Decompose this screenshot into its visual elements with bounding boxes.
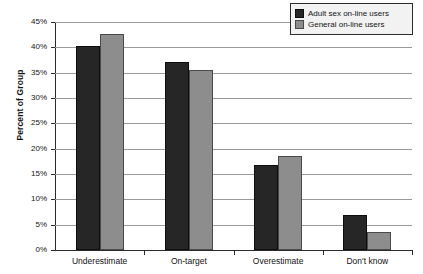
legend-swatch-icon-series-1 — [295, 20, 304, 29]
legend-label-series-0: Adult sex on-line users — [308, 9, 389, 18]
category-label-1: On-target — [144, 256, 233, 266]
bar-1-0 — [100, 34, 124, 250]
category-separator-tick — [234, 250, 235, 255]
y-axis-tick-label: 30% — [3, 94, 47, 102]
y-axis-tick — [51, 22, 55, 23]
y-axis-tick-label: 35% — [3, 69, 47, 77]
y-axis-tick — [51, 250, 55, 251]
bar-0-1 — [165, 62, 189, 250]
y-axis-tick — [51, 149, 55, 150]
plot-area: UnderestimateOn-targetOverestimateDon't … — [55, 22, 412, 250]
y-axis-line — [55, 22, 56, 250]
bar-0-0 — [76, 46, 100, 250]
legend-label-series-1: General on-line users — [308, 20, 384, 29]
y-axis-tick-label: 0% — [3, 246, 47, 254]
y-axis-tick — [51, 199, 55, 200]
y-axis-tick — [51, 73, 55, 74]
legend-item-series-0: Adult sex on-line users — [295, 8, 408, 19]
y-axis-tick — [51, 98, 55, 99]
y-axis-tick-label: 5% — [3, 221, 47, 229]
bar-chart: Percent of Group UnderestimateOn-targetO… — [0, 0, 423, 274]
bar-0-3 — [343, 215, 367, 250]
category-separator-tick — [323, 250, 324, 255]
y-axis-tick — [51, 123, 55, 124]
y-axis-tick — [51, 47, 55, 48]
y-axis-tick-label: 20% — [3, 145, 47, 153]
bar-0-2 — [254, 165, 278, 250]
y-axis-tick-label: 10% — [3, 195, 47, 203]
category-label-2: Overestimate — [234, 256, 323, 266]
legend-swatch-icon-series-0 — [295, 9, 304, 18]
category-label-0: Underestimate — [55, 256, 144, 266]
category-separator-tick-end — [412, 250, 413, 255]
bar-1-2 — [278, 156, 302, 250]
category-separator-tick — [144, 250, 145, 255]
y-axis-tick-label: 45% — [3, 18, 47, 26]
y-axis-tick-label: 40% — [3, 43, 47, 51]
bar-1-1 — [189, 70, 213, 250]
y-axis-tick — [51, 174, 55, 175]
y-axis-tick — [51, 225, 55, 226]
bar-1-3 — [367, 232, 391, 250]
legend: Adult sex on-line users General on-line … — [290, 3, 413, 35]
y-axis-tick-label: 15% — [3, 170, 47, 178]
legend-item-series-1: General on-line users — [295, 19, 408, 30]
category-label-3: Don't know — [323, 256, 412, 266]
y-axis-tick-label: 25% — [3, 119, 47, 127]
